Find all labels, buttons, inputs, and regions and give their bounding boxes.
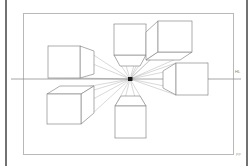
corner-mark-label: PP: [236, 154, 241, 158]
top-center-cube: [114, 24, 146, 66]
upper-left-cube: [48, 46, 94, 78]
screenshot-canvas: HL PP: [0, 0, 252, 166]
right-cube: [163, 63, 208, 95]
perspective-diagram: [0, 0, 252, 166]
lower-left-cube: [47, 86, 94, 124]
vanishing-point-marker: [128, 77, 133, 81]
horizon-line-label: HL: [235, 70, 241, 74]
top-right-cube: [146, 21, 192, 60]
bottom-center-cube: [115, 96, 146, 138]
